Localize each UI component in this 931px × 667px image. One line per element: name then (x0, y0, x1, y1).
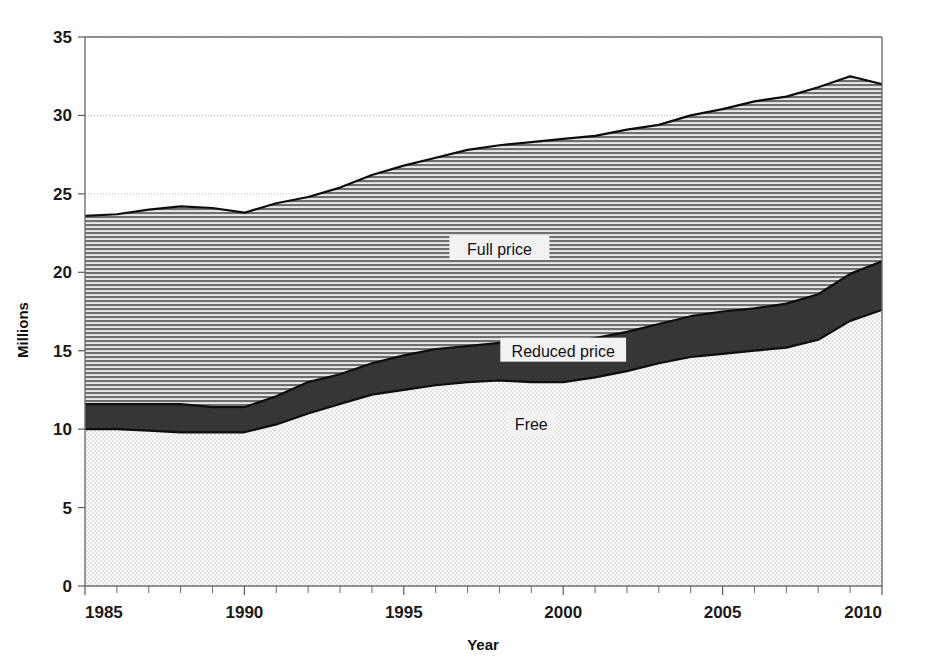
y-tick-label-30: 30 (53, 106, 72, 125)
y-tick-label-35: 35 (53, 28, 72, 47)
x-axis-title: Year (467, 636, 499, 653)
y-tick-label-5: 5 (63, 499, 72, 518)
y-tick-label-15: 15 (53, 342, 72, 361)
x-tick-label-1990: 1990 (225, 603, 263, 622)
x-tick-label-2010: 2010 (844, 603, 882, 622)
y-tick-label-10: 10 (53, 420, 72, 439)
y-tick-label-20: 20 (53, 263, 72, 282)
stacked-area-chart: 05101520253035 198519901995200020052010 … (0, 0, 931, 667)
series-label-reduced-price: Reduced price (512, 343, 615, 360)
y-axis-title: Millions (14, 302, 31, 358)
chart-container: 05101520253035 198519901995200020052010 … (0, 0, 931, 667)
x-tick-label-1995: 1995 (385, 603, 423, 622)
x-tick-label-2005: 2005 (704, 603, 742, 622)
series-label-free: Free (515, 416, 548, 433)
x-tick-label-1985: 1985 (85, 603, 123, 622)
y-tick-label-0: 0 (63, 577, 72, 596)
series-label-full-price: Full price (467, 241, 532, 258)
x-tick-label-2000: 2000 (544, 603, 582, 622)
y-tick-label-25: 25 (53, 185, 72, 204)
